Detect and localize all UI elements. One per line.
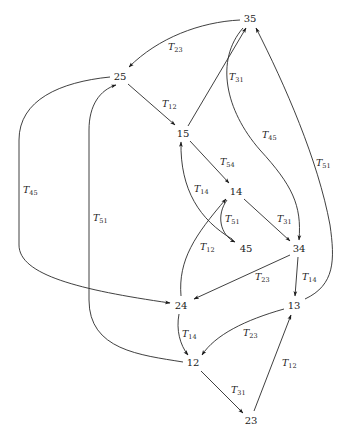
- edge-label-35-25: T23: [168, 41, 183, 54]
- node-23: 23: [245, 415, 258, 426]
- edge-label-34-24: T23: [255, 271, 270, 284]
- edge-label-15-14: T54: [220, 156, 235, 169]
- graph-diagram: 35 25 15 14 45 34 24 13 12 23 T23 T12 T3…: [0, 0, 349, 437]
- edge-label-14-34: T31: [277, 213, 292, 226]
- edges: [19, 20, 332, 413]
- edge-25-24: [19, 77, 170, 303]
- node-45: 45: [240, 243, 253, 254]
- node-12: 12: [187, 357, 200, 368]
- node-13: 13: [288, 300, 301, 311]
- edge-label-34-13: T14: [302, 271, 317, 284]
- edge-label-13-12: T23: [243, 327, 258, 340]
- node-15: 15: [177, 128, 190, 139]
- edge-label-23-13: T12: [282, 357, 297, 370]
- edge-label-24-12: T14: [182, 328, 197, 341]
- edge-34-24: [194, 255, 290, 299]
- node-25: 25: [114, 71, 127, 82]
- edge-labels: T23 T12 T31 T45 T51 T54 T14 T51 T12 T31 …: [23, 41, 331, 397]
- edge-label-25-24: T45: [23, 184, 38, 197]
- edge-label-45-15: T14: [194, 183, 209, 196]
- edge-label-12-23: T31: [231, 384, 246, 397]
- edge-label-12-25: T51: [93, 212, 108, 225]
- edge-label-24-14: T12: [200, 241, 215, 254]
- edge-label-35-34: T45: [262, 129, 277, 142]
- edge-35-25: [129, 20, 240, 67]
- edge-label-14-45: T51: [225, 213, 240, 226]
- node-24: 24: [175, 300, 188, 311]
- node-14: 14: [230, 186, 243, 197]
- edge-label-15-35: T31: [229, 71, 244, 84]
- edge-34-13: [295, 257, 298, 296]
- node-34: 34: [293, 243, 306, 254]
- node-35: 35: [244, 13, 257, 24]
- edge-label-25-15: T12: [162, 98, 177, 111]
- edge-label-13-35: T51: [316, 157, 331, 170]
